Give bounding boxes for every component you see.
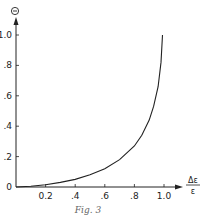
x-tick-label: 1.0 [157,191,172,201]
figure-caption: Fig. 3 [74,205,102,215]
x-axis-label: Δε ε [186,176,200,196]
y-tick-label: .2 [3,152,12,162]
y-tick-label: 0 [6,182,12,192]
y-tick-label: .8 [3,60,12,70]
data-curve [16,35,163,187]
y-tick-label: .4 [3,121,12,131]
x-tick-label: .4 [71,191,80,201]
y-tick-label: .6 [3,91,12,101]
y-axis-arrow-icon [14,17,19,25]
chart-figure: Δε ε 0.2.4.6.81.0 0.2.4.6.81.0 Fig. 3 [0,0,204,216]
y-tick-label: 1.0 [0,30,12,40]
svg-text:ε: ε [191,187,195,196]
x-axis-arrow-icon [175,185,183,190]
x-tick-label: .6 [101,191,110,201]
x-tick-label: .8 [130,191,139,201]
y-axis-label-theta [11,7,18,14]
svg-text:Δε: Δε [188,176,198,185]
x-tick-label: 0.2 [38,191,52,201]
